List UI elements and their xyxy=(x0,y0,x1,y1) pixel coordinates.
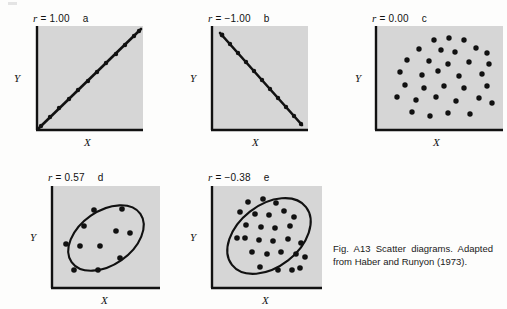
panel-a-y-axis-label: Y xyxy=(14,72,20,84)
panel-e-r-value: = −0.38 xyxy=(215,172,250,183)
panel-b-label: r = −1.00 b xyxy=(208,12,270,24)
panel-d-y-axis-label: Y xyxy=(30,231,36,243)
panel-a-letter: a xyxy=(83,13,89,24)
panel-b-plot xyxy=(208,26,308,134)
panel-c-label: r = 0.00 c xyxy=(372,12,427,24)
panel-c-plot xyxy=(372,26,503,134)
figure-page: r = 1.00 a Y X xyxy=(0,0,507,309)
panel-a-r-value: = 1.00 xyxy=(40,13,69,24)
panel-b-letter: b xyxy=(264,13,270,24)
panel-d-r-value: = 0.57 xyxy=(55,172,84,183)
panel-b-x-axis-label: X xyxy=(252,136,259,148)
panel-d-r-symbol: r xyxy=(48,171,52,183)
panel-d-letter: d xyxy=(98,172,104,183)
panel-d-plot-background xyxy=(52,186,160,288)
panel-a-plot xyxy=(33,26,143,134)
panel-e-label: r = −0.38 e xyxy=(208,171,270,183)
panel-b-r-value: = −1.00 xyxy=(215,13,250,24)
panel-d-x-axis-label: X xyxy=(101,294,108,306)
panel-c-r-symbol: r xyxy=(372,12,376,24)
panel-e-r-symbol: r xyxy=(208,171,212,183)
panel-e-plot xyxy=(208,186,322,292)
panel-c-x-axis-label: X xyxy=(433,136,440,148)
panel-b-y-axis-label: Y xyxy=(190,72,196,84)
scan-artifact xyxy=(8,2,17,5)
panel-a-r-symbol: r xyxy=(33,12,37,24)
panel-d-label: r = 0.57 d xyxy=(48,171,104,183)
panel-a-x-axis-label: X xyxy=(84,136,91,148)
panel-c-plot-background xyxy=(376,26,503,130)
panel-b-r-symbol: r xyxy=(208,12,212,24)
panel-e-letter: e xyxy=(264,172,270,183)
figure-caption: Fig. A13 Scatter diagrams. Adapted from … xyxy=(333,243,493,268)
panel-e-y-axis-label: Y xyxy=(190,231,196,243)
panel-d-plot xyxy=(48,186,160,292)
panel-e-x-axis-label: X xyxy=(262,294,269,306)
panel-c-r-value: = 0.00 xyxy=(379,13,408,24)
panel-a-label: r = 1.00 a xyxy=(33,12,89,24)
panel-c-y-axis-label: Y xyxy=(355,72,361,84)
panel-c-letter: c xyxy=(422,13,427,24)
